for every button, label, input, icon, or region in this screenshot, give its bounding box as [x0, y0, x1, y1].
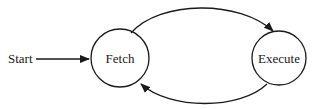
state-execute-label: Execute	[258, 51, 300, 66]
state-execute: Execute	[252, 31, 306, 85]
state-fetch-label: Fetch	[106, 51, 135, 66]
transition-execute-to-fetch	[141, 84, 267, 104]
state-diagram: Start Fetch Execute	[0, 0, 318, 109]
transition-fetch-to-execute	[131, 8, 273, 33]
start-label: Start	[8, 51, 33, 66]
state-fetch: Fetch	[91, 29, 149, 87]
